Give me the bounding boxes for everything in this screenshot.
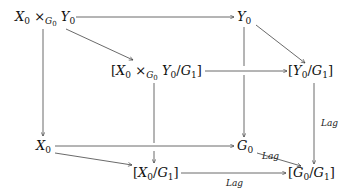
arrow-Y0-to-Y0quot xyxy=(256,25,305,63)
node-X0-quotient: [X0/G1] xyxy=(133,166,179,182)
node-fiber-product: X0 ×G0 Y0 xyxy=(15,10,75,28)
commutative-diagram: X0 ×G0 Y0 Y0 [X0 ×G0 Y0/G1] [Y0/G1] X0 G… xyxy=(0,0,354,195)
node-quotient-fiber-product: [X0 ×G0 Y0/G1] xyxy=(111,64,202,82)
node-G0-quotient: [G0/G1] xyxy=(288,166,335,182)
node-Y0-quotient: [Y0/G1] xyxy=(288,64,333,80)
edge-label-lag-diagonal: Lag xyxy=(262,151,279,161)
node-Y0: Y0 xyxy=(237,10,251,26)
edge-label-lag-bottom: Lag xyxy=(226,178,243,188)
arrow-X0-to-X0quot xyxy=(55,153,132,165)
node-G0: G0 xyxy=(237,139,253,155)
edge-label-lag-right: Lag xyxy=(321,118,338,128)
arrow-fiberprod-to-quotfiber xyxy=(66,29,133,60)
node-X0: X0 xyxy=(36,139,51,155)
